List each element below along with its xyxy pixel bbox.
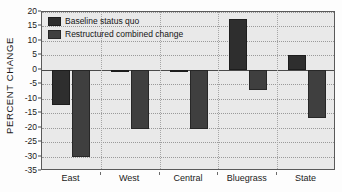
bar-chart-figure: PERCENT CHANGE 20151050-5-10-15-20-25-30…: [0, 0, 342, 192]
y-axis-tick-labels: 20151050-5-10-15-20-25-30-35: [18, 11, 41, 170]
bar-restructured: [131, 70, 149, 129]
category-divider: [277, 12, 278, 169]
legend-label-restructured: Restructured combined change: [65, 30, 183, 39]
bar-restructured: [249, 70, 267, 90]
plot-area: Baseline status quo Restructured combine…: [41, 11, 335, 170]
bar-baseline: [229, 19, 247, 70]
x-tick-mark: [100, 172, 101, 175]
y-axis-title-text: PERCENT CHANGE: [4, 37, 15, 134]
legend-item-baseline: Baseline status quo: [48, 15, 183, 27]
bar-baseline: [170, 70, 188, 72]
y-tick-label: 20: [28, 7, 37, 16]
y-tick-label: -20: [25, 122, 37, 131]
x-tick-label: East: [61, 174, 79, 183]
x-tick-label: State: [295, 174, 316, 183]
x-tick-label: Central: [173, 174, 202, 183]
gridline: [42, 157, 334, 158]
y-tick-label: 10: [28, 36, 37, 45]
y-tick-label: -10: [25, 93, 37, 102]
bar-baseline: [52, 70, 70, 105]
y-tick-label: 0: [32, 65, 37, 74]
x-axis-tick-labels: EastWestCentralBluegrassState: [41, 172, 335, 188]
y-tick-label: -5: [29, 79, 37, 88]
gridline: [42, 41, 334, 42]
y-tick-label: -25: [25, 137, 37, 146]
y-tick-label: 5: [32, 50, 37, 59]
y-tick-label: -30: [25, 151, 37, 160]
restructured-swatch-icon: [48, 30, 61, 39]
x-tick-label: Bluegrass: [227, 174, 267, 183]
bar-restructured: [308, 70, 326, 118]
bar-baseline: [288, 55, 306, 69]
legend-item-restructured: Restructured combined change: [48, 28, 183, 40]
legend-label-baseline: Baseline status quo: [65, 17, 139, 26]
x-tick-mark: [217, 172, 218, 175]
bar-restructured: [72, 70, 90, 157]
y-tick-label: -35: [25, 166, 37, 175]
category-divider: [218, 12, 219, 169]
bar-baseline: [111, 70, 129, 72]
y-axis-title: PERCENT CHANGE: [0, 0, 18, 170]
y-tick-label: 15: [28, 21, 37, 30]
chart-legend: Baseline status quo Restructured combine…: [48, 15, 183, 41]
x-tick-label: West: [119, 174, 139, 183]
gridline: [42, 12, 334, 13]
bar-restructured: [190, 70, 208, 129]
baseline-swatch-icon: [48, 17, 61, 26]
x-tick-mark: [276, 172, 277, 175]
y-tick-label: -15: [25, 108, 37, 117]
x-tick-mark: [159, 172, 160, 175]
